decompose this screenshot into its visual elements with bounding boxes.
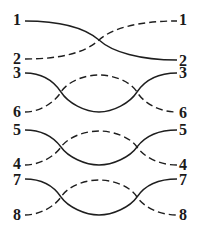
pair-7-8: 7 8 7 8 — [13, 171, 187, 223]
left-label-8: 8 — [13, 206, 21, 223]
dashed-wire-2-to-1 — [25, 21, 177, 59]
left-label-5: 5 — [13, 121, 21, 138]
right-label-8: 8 — [179, 206, 187, 223]
right-label-6: 6 — [179, 104, 187, 121]
right-label-3: 3 — [179, 64, 187, 81]
pair-5-4: 5 4 5 4 — [13, 121, 187, 173]
solid-wire-3-to-3 — [25, 73, 177, 112]
dashed-wire-6-to-6 — [25, 75, 177, 112]
solid-wire-1-to-2 — [25, 21, 177, 60]
left-label-1: 1 — [13, 11, 21, 28]
right-label-7: 7 — [179, 171, 187, 188]
right-label-1: 1 — [179, 11, 187, 28]
pair-1-2: 1 2 1 2 — [13, 11, 187, 69]
pair-3-6: 3 6 3 6 — [13, 64, 187, 121]
left-label-7: 7 — [13, 171, 21, 188]
wiring-diagram: 1 2 1 2 3 6 3 6 5 4 5 4 7 8 7 8 — [0, 0, 198, 243]
right-label-5: 5 — [179, 121, 187, 138]
left-label-4: 4 — [13, 155, 21, 172]
left-label-3: 3 — [13, 64, 21, 81]
left-label-6: 6 — [13, 103, 21, 120]
